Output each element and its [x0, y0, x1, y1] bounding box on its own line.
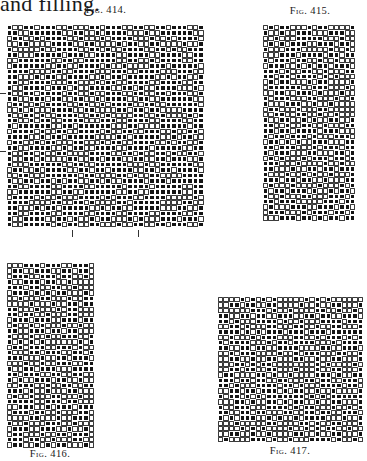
weave-cell — [301, 139, 306, 144]
weave-cell — [301, 41, 306, 46]
weave-cell — [234, 329, 239, 334]
weave-cell — [277, 356, 282, 361]
weave-cell — [266, 345, 271, 350]
weave-cell — [317, 188, 322, 193]
weave-cell — [328, 79, 333, 84]
weave-cell — [350, 41, 355, 46]
weave-cell — [61, 415, 66, 420]
weave-cell — [83, 415, 88, 420]
weave-cell — [83, 388, 88, 393]
weave-cell — [277, 431, 282, 436]
weave-cell — [317, 90, 322, 95]
reference-tick-mark — [0, 93, 6, 94]
weave-cell — [339, 90, 344, 95]
weave-cell — [56, 74, 61, 79]
weave-cell — [320, 415, 325, 420]
weave-cell — [45, 442, 50, 447]
figure-415-weave-grid — [263, 25, 355, 221]
weave-cell — [72, 290, 77, 295]
weave-cell — [89, 415, 94, 420]
weave-cell — [277, 437, 282, 442]
weave-cell — [352, 437, 357, 442]
weave-cell — [61, 442, 66, 447]
figure-416-weave-grid — [7, 263, 94, 448]
reference-tick-mark — [0, 151, 6, 152]
weave-cell — [250, 399, 255, 404]
weave-cell — [89, 317, 94, 322]
weave-cell — [127, 63, 132, 68]
weave-cell — [56, 222, 61, 227]
figure-417-weave-grid — [218, 297, 363, 442]
figure-414-weave-grid — [7, 25, 204, 227]
figure-417-caption: Fig. 417. — [270, 445, 310, 456]
weave-cell — [171, 107, 176, 112]
weave-cell — [34, 415, 39, 420]
reference-tick-mark — [72, 230, 73, 237]
weave-cell — [160, 222, 165, 227]
weave-cell — [67, 189, 72, 194]
weave-cell — [160, 63, 165, 68]
weave-cell — [45, 317, 50, 322]
weave-cell — [293, 437, 298, 442]
weave-cell — [350, 52, 355, 57]
weave-cell — [34, 167, 39, 172]
weave-cell — [45, 222, 50, 227]
weave-cell — [277, 329, 282, 334]
weave-cell — [45, 189, 50, 194]
weave-cell — [198, 222, 203, 227]
weave-cell — [358, 356, 363, 361]
weave-cell — [149, 74, 154, 79]
weave-cell — [61, 366, 66, 371]
weave-cell — [83, 442, 88, 447]
weave-cell — [83, 279, 88, 284]
weave-cell — [89, 404, 94, 409]
weave-cell — [277, 415, 282, 420]
weave-cell — [336, 356, 341, 361]
weave-cell — [336, 437, 341, 442]
weave-cell — [89, 442, 94, 447]
weave-cell — [223, 437, 228, 442]
weave-cell — [350, 215, 355, 220]
weave-cell — [23, 290, 28, 295]
weave-cell — [89, 279, 94, 284]
weave-cell — [89, 339, 94, 344]
weave-cell — [309, 313, 314, 318]
weave-cell — [45, 145, 50, 150]
weave-cell — [89, 388, 94, 393]
weave-cell — [277, 302, 282, 307]
weave-cell — [45, 339, 50, 344]
weave-cell — [350, 79, 355, 84]
weave-cell — [78, 85, 83, 90]
weave-cell — [89, 366, 94, 371]
weave-cell — [234, 302, 239, 307]
weave-cell — [301, 101, 306, 106]
weave-cell — [72, 442, 77, 447]
figure-416-caption: Fig. 416. — [30, 448, 70, 459]
weave-cell — [138, 222, 143, 227]
weave-cell — [250, 415, 255, 420]
weave-cell — [328, 101, 333, 106]
weave-cell — [328, 177, 333, 182]
weave-cell — [358, 437, 363, 442]
weave-cell — [358, 431, 363, 436]
weave-cell — [358, 302, 363, 307]
weave-cell — [336, 399, 341, 404]
reference-tick-mark — [138, 230, 139, 237]
weave-cell — [198, 63, 203, 68]
weave-cell — [290, 150, 295, 155]
weave-cell — [45, 404, 50, 409]
weave-cell — [234, 437, 239, 442]
figure-415-caption: Fig. 415. — [290, 5, 330, 16]
weave-cell — [34, 442, 39, 447]
weave-cell — [290, 166, 295, 171]
weave-cell — [223, 399, 228, 404]
weave-cell — [198, 189, 203, 194]
weave-cell — [89, 301, 94, 306]
weave-cell — [78, 222, 83, 227]
weave-cell — [89, 426, 94, 431]
weave-cell — [23, 442, 28, 447]
weave-cell — [198, 145, 203, 150]
weave-cell — [350, 128, 355, 133]
weave-cell — [34, 388, 39, 393]
weave-cell — [290, 215, 295, 220]
